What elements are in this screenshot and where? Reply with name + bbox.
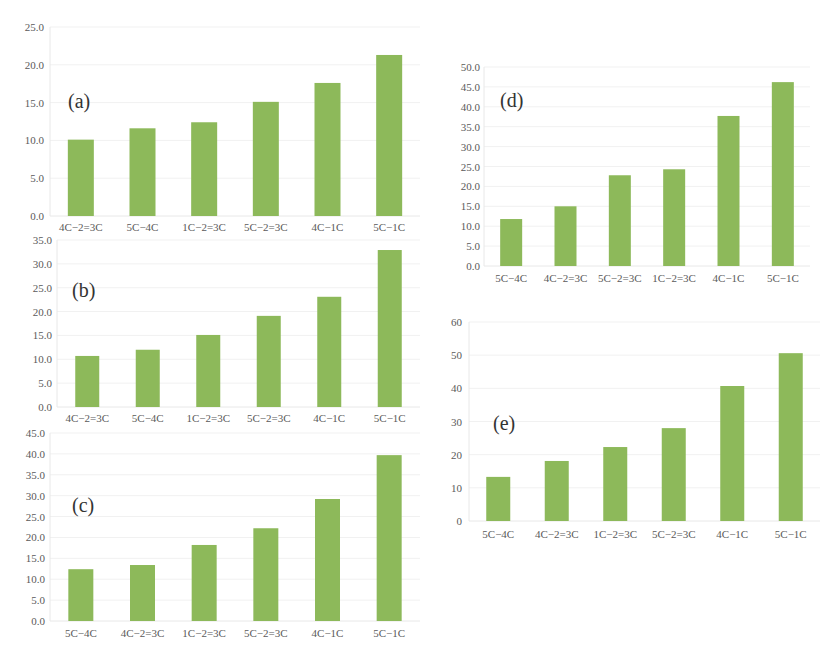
y-tick-label: 25.0 <box>25 21 45 33</box>
bar <box>192 545 217 621</box>
y-tick-label: 25.0 <box>461 161 481 173</box>
bar <box>68 569 93 621</box>
y-tick-label: 5.0 <box>38 377 52 389</box>
x-tick-label: 1C−2=3C <box>652 272 696 284</box>
x-tick-label: 4C−1C <box>713 272 745 284</box>
bar <box>772 82 794 266</box>
y-tick-label: 0.0 <box>31 615 45 627</box>
bar <box>253 102 279 216</box>
x-tick-label: 5C−1C <box>373 627 405 639</box>
x-tick-label: 5C−2=3C <box>247 412 291 424</box>
y-tick-label: 0.0 <box>30 210 44 222</box>
y-tick-label: 15.0 <box>33 329 53 341</box>
bar <box>317 297 341 407</box>
x-tick-label: 5C−4C <box>482 528 514 540</box>
bar <box>253 528 278 621</box>
y-tick-label: 15.0 <box>25 97 45 109</box>
x-tick-label: 5C−4C <box>65 627 97 639</box>
y-tick-label: 50 <box>451 349 463 361</box>
panel-label: (d) <box>500 89 523 112</box>
bar <box>377 455 402 621</box>
x-tick-label: 5C−1C <box>373 221 405 233</box>
x-tick-label: 5C−2=3C <box>244 627 288 639</box>
y-tick-label: 10.0 <box>26 573 46 585</box>
chart-d: 0.05.010.015.020.025.030.035.040.045.050… <box>461 61 810 284</box>
y-tick-label: 5.0 <box>31 594 45 606</box>
panel-label: (e) <box>493 412 515 435</box>
y-tick-label: 5.0 <box>466 240 480 252</box>
x-tick-label: 1C−2=3C <box>182 221 226 233</box>
chart-b: 0.05.010.015.020.025.030.035.04C−2=3C5C−… <box>33 234 420 424</box>
y-tick-label: 40 <box>451 382 463 394</box>
x-tick-label: 4C−1C <box>312 221 344 233</box>
x-tick-label: 1C−2=3C <box>593 528 637 540</box>
bar <box>136 350 160 407</box>
y-tick-label: 45.0 <box>26 427 46 439</box>
bar <box>315 499 340 621</box>
y-tick-label: 40.0 <box>26 448 46 460</box>
y-tick-label: 30.0 <box>26 490 46 502</box>
x-tick-label: 5C−4C <box>127 221 159 233</box>
bar <box>130 128 156 216</box>
y-tick-label: 45.0 <box>461 81 481 93</box>
bar <box>720 386 744 521</box>
bar <box>663 169 685 266</box>
panel-label: (a) <box>68 90 90 113</box>
x-tick-label: 5C−2=3C <box>598 272 642 284</box>
x-tick-label: 4C−1C <box>312 627 344 639</box>
y-tick-label: 20.0 <box>33 306 53 318</box>
x-tick-label: 4C−2=3C <box>59 221 103 233</box>
x-tick-label: 5C−4C <box>132 412 164 424</box>
y-tick-label: 30.0 <box>33 258 53 270</box>
bar <box>75 356 99 407</box>
y-tick-label: 25.0 <box>26 511 46 523</box>
chart-c: 0.05.010.015.020.025.030.035.040.045.05C… <box>26 427 420 639</box>
panel-label: (b) <box>72 279 95 302</box>
y-tick-label: 10 <box>451 482 463 494</box>
bar <box>500 219 522 266</box>
y-tick-label: 10.0 <box>461 220 481 232</box>
y-tick-label: 20 <box>451 449 463 461</box>
y-tick-label: 15.0 <box>26 552 46 564</box>
chart-a: 0.05.010.015.020.025.04C−2=3C5C−4C1C−2=3… <box>25 21 420 233</box>
bar <box>609 175 631 266</box>
y-tick-label: 30 <box>451 416 463 428</box>
y-tick-label: 20.0 <box>26 531 46 543</box>
y-tick-label: 10.0 <box>33 353 53 365</box>
y-tick-label: 35.0 <box>33 234 53 246</box>
bar <box>378 250 402 407</box>
bar <box>486 477 510 521</box>
bar <box>555 206 577 266</box>
x-tick-label: 4C−2=3C <box>121 627 165 639</box>
x-tick-label: 4C−2=3C <box>535 528 579 540</box>
x-tick-label: 5C−2=3C <box>244 221 288 233</box>
x-tick-label: 4C−2=3C <box>544 272 588 284</box>
x-tick-label: 5C−1C <box>767 272 799 284</box>
x-tick-label: 5C−1C <box>374 412 406 424</box>
figure-canvas: 0.05.010.015.020.025.04C−2=3C5C−4C1C−2=3… <box>0 0 829 656</box>
bar <box>603 447 627 521</box>
y-tick-label: 25.0 <box>33 282 53 294</box>
bar <box>718 116 740 266</box>
y-tick-label: 0.0 <box>466 260 480 272</box>
y-tick-label: 40.0 <box>461 101 481 113</box>
x-tick-label: 1C−2=3C <box>182 627 226 639</box>
y-tick-label: 20.0 <box>25 59 45 71</box>
y-tick-label: 20.0 <box>461 180 481 192</box>
bar <box>315 83 341 216</box>
x-tick-label: 1C−2=3C <box>186 412 230 424</box>
bar <box>779 353 803 521</box>
y-tick-label: 15.0 <box>461 200 481 212</box>
y-tick-label: 50.0 <box>461 61 481 73</box>
bar <box>191 122 217 216</box>
y-tick-label: 10.0 <box>25 134 45 146</box>
x-tick-label: 5C−2=3C <box>652 528 696 540</box>
bar <box>130 565 155 621</box>
x-tick-label: 4C−1C <box>716 528 748 540</box>
y-tick-label: 60 <box>451 316 463 328</box>
y-tick-label: 5.0 <box>30 172 44 184</box>
panel-label: (c) <box>72 494 94 517</box>
y-tick-label: 30.0 <box>461 141 481 153</box>
x-tick-label: 4C−2=3C <box>65 412 109 424</box>
bar <box>257 316 281 407</box>
